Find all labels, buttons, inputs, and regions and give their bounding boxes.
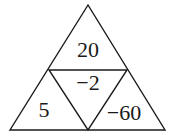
top-cell-value: 20 — [77, 37, 99, 62]
outer-triangle — [10, 5, 165, 130]
bottom-left-cell-value: 5 — [39, 97, 50, 122]
center-cell-value: −2 — [76, 70, 99, 95]
triangle-diagram: 20 −2 5 −60 — [0, 0, 172, 139]
bottom-right-cell-value: −60 — [107, 100, 141, 125]
